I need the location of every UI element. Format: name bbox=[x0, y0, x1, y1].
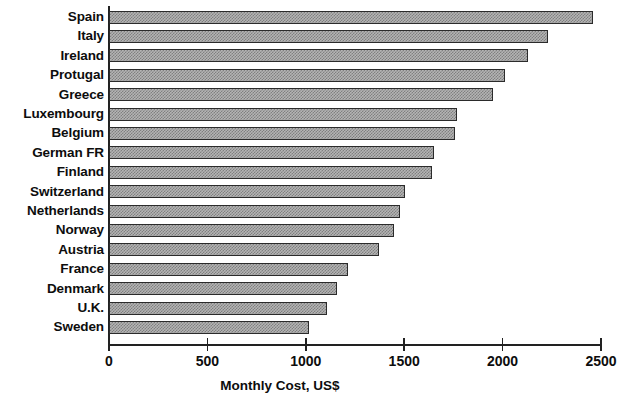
x-axis-title: Monthly Cost, US$ bbox=[0, 378, 560, 393]
x-tick-label: 1500 bbox=[389, 353, 420, 369]
bar-row: Austria bbox=[0, 241, 617, 260]
bar-luxembourg bbox=[109, 108, 457, 121]
x-tick-label: 2000 bbox=[487, 353, 518, 369]
bar-italy bbox=[109, 30, 548, 43]
bar-row: Luxembourg bbox=[0, 105, 617, 124]
bar-label-austria: Austria bbox=[0, 241, 104, 260]
bar-label-ireland: Ireland bbox=[0, 47, 104, 66]
bar-row: Sweden bbox=[0, 318, 617, 337]
bar-row: France bbox=[0, 260, 617, 279]
bar-label-france: France bbox=[0, 260, 104, 279]
bar-row: Finland bbox=[0, 163, 617, 182]
x-tick-label: 2500 bbox=[585, 353, 616, 369]
x-tick-mark bbox=[108, 338, 110, 351]
bar-row: Norway bbox=[0, 221, 617, 240]
bar-label-norway: Norway bbox=[0, 221, 104, 240]
bar-row: U.K. bbox=[0, 299, 617, 318]
bar-label-greece: Greece bbox=[0, 86, 104, 105]
bar-row: German FR bbox=[0, 144, 617, 163]
bar-norway bbox=[109, 224, 394, 237]
x-axis-line bbox=[108, 344, 602, 346]
bar-row: Greece bbox=[0, 86, 617, 105]
bar-denmark bbox=[109, 282, 337, 295]
bar-protugal bbox=[109, 69, 505, 82]
bar-label-denmark: Denmark bbox=[0, 280, 104, 299]
bar-label-luxembourg: Luxembourg bbox=[0, 105, 104, 124]
x-tick-label: 500 bbox=[196, 353, 219, 369]
bar-row: Protugal bbox=[0, 66, 617, 85]
bar-row: Netherlands bbox=[0, 202, 617, 221]
bar-finland bbox=[109, 166, 432, 179]
bar-row: Denmark bbox=[0, 280, 617, 299]
plot-area: SpainItalyIrelandProtugalGreeceLuxembour… bbox=[0, 0, 617, 345]
bar-row: Spain bbox=[0, 8, 617, 27]
bar-label-spain: Spain bbox=[0, 8, 104, 27]
bar-label-u-k: U.K. bbox=[0, 299, 104, 318]
bar-belgium bbox=[109, 127, 455, 140]
x-tick-mark bbox=[403, 338, 405, 351]
bar-german-fr bbox=[109, 146, 434, 159]
bar-row: Belgium bbox=[0, 124, 617, 143]
bar-label-german-fr: German FR bbox=[0, 144, 104, 163]
bar-label-italy: Italy bbox=[0, 27, 104, 46]
bar-austria bbox=[109, 243, 379, 256]
bar-row: Ireland bbox=[0, 47, 617, 66]
bar-label-sweden: Sweden bbox=[0, 318, 104, 337]
bar-france bbox=[109, 263, 348, 276]
x-tick-mark bbox=[207, 338, 209, 351]
x-tick-mark bbox=[600, 338, 602, 351]
bar-chart: SpainItalyIrelandProtugalGreeceLuxembour… bbox=[0, 0, 617, 404]
x-tick-label: 1000 bbox=[290, 353, 321, 369]
bar-u-k bbox=[109, 302, 327, 315]
bar-label-netherlands: Netherlands bbox=[0, 202, 104, 221]
bar-greece bbox=[109, 88, 493, 101]
bar-label-finland: Finland bbox=[0, 163, 104, 182]
bar-switzerland bbox=[109, 185, 405, 198]
x-tick-mark bbox=[502, 338, 504, 351]
bar-label-belgium: Belgium bbox=[0, 124, 104, 143]
bar-row: Switzerland bbox=[0, 183, 617, 202]
bar-spain bbox=[109, 11, 593, 24]
bar-netherlands bbox=[109, 205, 400, 218]
bar-ireland bbox=[109, 49, 528, 62]
bar-row: Italy bbox=[0, 27, 617, 46]
bar-sweden bbox=[109, 321, 309, 334]
x-tick-label: 0 bbox=[105, 353, 113, 369]
bar-label-protugal: Protugal bbox=[0, 66, 104, 85]
x-tick-mark bbox=[305, 338, 307, 351]
bar-label-switzerland: Switzerland bbox=[0, 183, 104, 202]
